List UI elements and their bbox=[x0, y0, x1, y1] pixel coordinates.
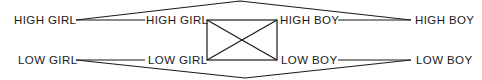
top-wedge-line bbox=[76, 1, 411, 20]
center-high-boy-label: HIGH BOY bbox=[280, 14, 339, 26]
center-low-girl-label: LOW GIRL bbox=[148, 54, 208, 66]
right-high-boy-label: HIGH BOY bbox=[415, 14, 474, 26]
right-low-boy-label: LOW BOY bbox=[416, 54, 472, 66]
left-high-girl-label: HIGH GIRL bbox=[14, 14, 77, 26]
bottom-wedge-line bbox=[76, 60, 411, 78]
center-high-girl-label: HIGH GIRL bbox=[146, 14, 209, 26]
center-low-boy-label: LOW BOY bbox=[281, 54, 337, 66]
crossing-box bbox=[207, 20, 277, 60]
left-low-girl-label: LOW GIRL bbox=[18, 54, 78, 66]
pairing-diagram: HIGH GIRL LOW GIRL HIGH GIRL LOW GIRL HI… bbox=[0, 0, 482, 80]
